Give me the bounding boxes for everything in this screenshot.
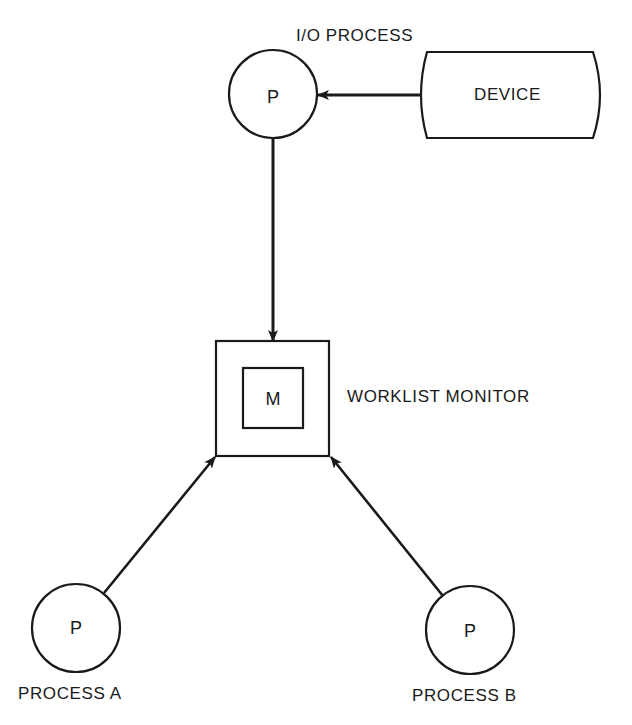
process-b-label: PROCESS B [412, 686, 517, 706]
process-b-to-monitor-arrow [331, 457, 443, 596]
monitor-letter: M [266, 389, 281, 410]
process-a-label: PROCESS A [18, 684, 122, 704]
process-b-letter: P [464, 621, 476, 642]
io-process-letter: P [267, 87, 279, 108]
worklist-monitor-label: WORKLIST MONITOR [347, 387, 530, 407]
process-a-to-monitor-arrow [104, 457, 215, 593]
io-process-label: I/O PROCESS [296, 26, 413, 46]
process-a-letter: P [70, 618, 82, 639]
device-label: DEVICE [474, 85, 541, 105]
diagram-canvas [0, 0, 632, 725]
